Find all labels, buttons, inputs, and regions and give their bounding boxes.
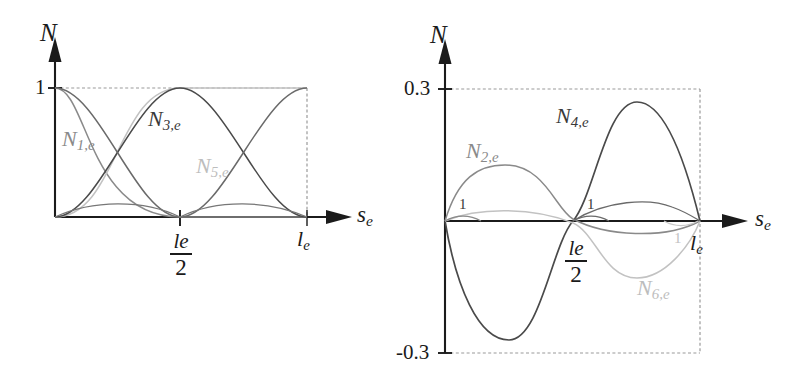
left-x-axis-label-sub: e (366, 212, 373, 229)
left-xtick-half-denominator: 2 (167, 255, 195, 279)
curve-label-n3e: N3,e (148, 108, 181, 133)
right-x-axis-label-base: s (755, 206, 764, 231)
curve-label-n5e: N5,e (196, 155, 229, 180)
right-xtick-le-sub: e (696, 241, 703, 257)
right-chart-xtick-half-le: le 2 (562, 238, 590, 286)
curve-label-n1e: N1,e (62, 128, 95, 153)
left-x-axis-label-base: s (357, 202, 366, 227)
right-chart-xtick-le: le (690, 232, 703, 257)
left-chart-xtick-half-le: le 2 (167, 231, 195, 279)
curve-label-n4e: N4,e (556, 105, 589, 130)
left-xtick-le-sub: e (303, 237, 310, 253)
curve-left-low-hump (55, 204, 307, 217)
right-xtick-half-numerator: le (562, 238, 590, 260)
right-chart-ytick-pos: 0.3 (404, 78, 430, 99)
left-xtick-half-numerator: le (167, 231, 195, 253)
left-chart-y-axis (49, 37, 62, 217)
curve-label-n6e: N6,e (637, 277, 670, 302)
left-chart-xtick-le: le (297, 228, 310, 253)
left-chart-x-axis-label: se (357, 203, 373, 229)
left-chart-ytick-1: 1 (35, 77, 46, 98)
left-chart-canvas (0, 0, 811, 376)
right-chart-x-axis-label: se (755, 207, 771, 233)
curve-label-n2e: N2,e (466, 140, 499, 165)
left-chart-y-axis-label: N (40, 20, 57, 45)
right-chart-y-axis-label: N (430, 22, 447, 47)
shape-function-figure: N 1 se le 2 le N1,e N3,e N5,e N 0.3 -0.3… (0, 0, 811, 376)
slope-mark-1: 1 (459, 196, 467, 213)
right-x-axis-label-sub: e (764, 216, 771, 233)
right-chart-y-axis (439, 39, 452, 353)
slope-mark-3: 1 (674, 230, 682, 247)
slope-mark-2: 1 (587, 196, 595, 213)
right-chart-ytick-neg: -0.3 (396, 342, 429, 363)
right-xtick-half-denominator: 2 (562, 262, 590, 286)
